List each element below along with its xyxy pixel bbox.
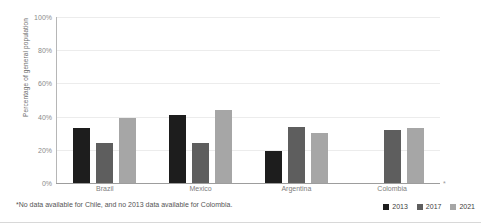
bar-group <box>249 17 345 183</box>
x-axis-tick-label: Colombia <box>377 185 407 192</box>
bar-group-bars <box>153 17 249 183</box>
legend-swatch-icon <box>450 204 456 210</box>
y-axis-tick-label: 20% <box>4 146 52 153</box>
plot-area <box>57 17 440 183</box>
y-axis-tick-label: 100% <box>4 14 52 21</box>
legend-label: 2017 <box>426 203 442 210</box>
legend-swatch-icon <box>417 204 423 210</box>
y-axis-tick-label: 0% <box>4 180 52 187</box>
bar[interactable] <box>265 151 282 183</box>
chart-legend: 201320172021 <box>383 203 475 210</box>
bar-group-bars <box>249 17 345 183</box>
bar-group <box>153 17 249 183</box>
legend-swatch-icon <box>383 204 389 210</box>
bar-group-bars <box>57 17 153 183</box>
x-axis-line <box>56 183 440 184</box>
bar[interactable] <box>169 115 186 183</box>
bar[interactable] <box>73 128 90 183</box>
bar[interactable] <box>288 127 305 183</box>
y-axis-tick-label: 60% <box>4 80 52 87</box>
legend-label: 2021 <box>459 203 475 210</box>
bar[interactable] <box>215 110 232 183</box>
y-axis-tick-label: 80% <box>4 47 52 54</box>
bar[interactable] <box>311 133 328 183</box>
x-axis-tick-labels: BrazilMexicoArgentinaColombia <box>57 185 440 197</box>
x-axis-tick-label: Argentina <box>281 185 311 192</box>
bar-group <box>57 17 153 183</box>
x-axis-tick-label: Mexico <box>190 185 212 192</box>
bar[interactable] <box>119 118 136 183</box>
bar-group-bars <box>344 17 440 183</box>
legend-label: 2013 <box>392 203 408 210</box>
x-axis-tick-label: Brazil <box>96 185 114 192</box>
legend-item[interactable]: 2013 <box>383 203 408 210</box>
bar[interactable] <box>407 128 424 183</box>
bar[interactable] <box>384 130 401 183</box>
axis-asterisk-note: * <box>443 180 446 187</box>
chart-footnote: *No data available for Chile, and no 201… <box>16 201 232 208</box>
bar-group <box>344 17 440 183</box>
y-axis-tick-label: 40% <box>4 113 52 120</box>
y-axis-tick-labels: 100%80%60%40%20%0% <box>0 17 52 183</box>
bar-chart-figure: Percentage of general population 100%80%… <box>0 0 481 223</box>
bar[interactable] <box>192 143 209 183</box>
legend-item[interactable]: 2017 <box>417 203 442 210</box>
bar[interactable] <box>96 143 113 183</box>
legend-item[interactable]: 2021 <box>450 203 475 210</box>
bottom-divider <box>0 222 481 223</box>
